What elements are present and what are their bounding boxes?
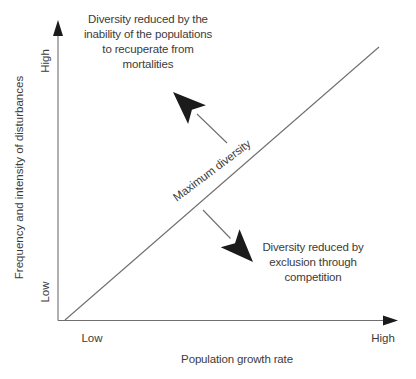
x-axis-arrowhead-icon: [383, 316, 398, 326]
upper-arrow-stem: [197, 114, 227, 143]
x-axis-high-label: High: [353, 331, 413, 345]
y-axis-title: Frequency and intensity of disturbances: [13, 48, 28, 308]
intermediate-disturbance-diagram: Diversity reduced by the inability of th…: [0, 0, 416, 379]
upper-arrowhead-icon: [173, 92, 206, 124]
x-axis-low-label: Low: [62, 331, 122, 345]
y-axis-high-label: High: [38, 41, 52, 81]
annotation-competition: Diversity reduced by exclusion through c…: [223, 240, 403, 285]
lower-arrow-stem: [203, 210, 231, 239]
x-axis-title: Population growth rate: [137, 352, 337, 367]
annotation-recuperation: Diversity reduced by the inability of th…: [38, 12, 258, 72]
y-axis-low-label: Low: [38, 272, 52, 312]
